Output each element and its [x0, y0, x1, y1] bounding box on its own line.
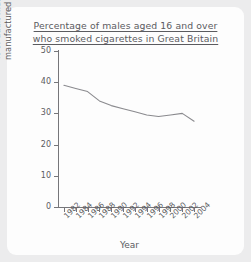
y-tick-label: 10 — [11, 171, 51, 180]
line-chart: Percentage of males aged 16 and over who… — [0, 0, 251, 262]
x-axis-label: Year — [58, 240, 201, 250]
y-tick-mark — [54, 113, 58, 114]
chart-title-line-2: who smoked cigarettes in Great Britain — [0, 33, 251, 44]
chart-title-line-1: Percentage of males aged 16 and over — [0, 20, 251, 31]
y-tick-label: 40 — [11, 77, 51, 86]
y-tick-label: 50 — [11, 46, 51, 55]
y-axis-label: % of adult males who smoked manufactured… — [0, 0, 14, 60]
y-tick-mark — [54, 51, 58, 52]
y-tick-mark — [54, 207, 58, 208]
y-axis-label-line-2: manufactured cigarettes — [3, 0, 14, 60]
y-tick-mark — [54, 82, 58, 83]
y-tick-mark — [54, 176, 58, 177]
y-tick-mark — [54, 145, 58, 146]
y-tick-label: 0 — [11, 202, 51, 211]
y-tick-label: 30 — [11, 108, 51, 117]
y-tick-label: 20 — [11, 140, 51, 149]
y-axis-line — [58, 50, 59, 208]
